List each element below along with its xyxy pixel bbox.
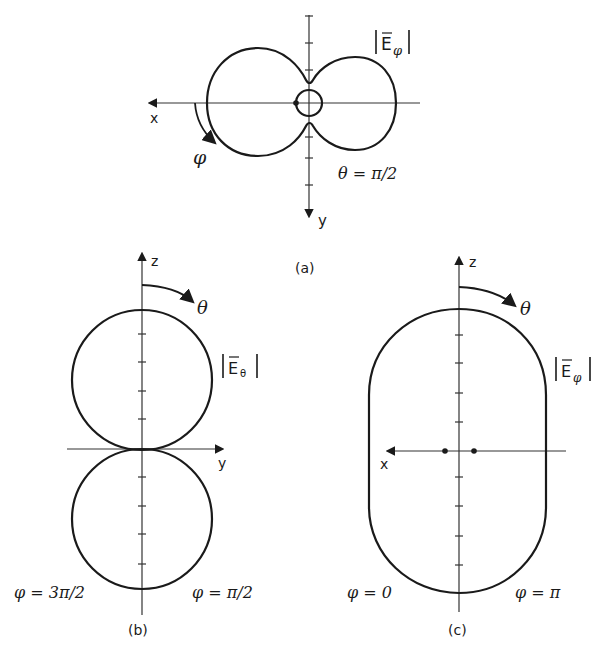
phi-3pi-2-label: φ = 3π/2 — [14, 583, 85, 602]
svg-text:E: E — [228, 359, 238, 378]
theta-angle-label-b: θ — [197, 297, 208, 318]
phi-0-label: φ = 0 — [347, 583, 392, 602]
pattern-e-phi-a — [207, 48, 396, 156]
source-dot-right — [471, 448, 477, 454]
field-label-e-phi-c: E φ — [556, 357, 590, 385]
theta-condition-label: θ = π/2 — [338, 164, 397, 183]
source-dot-left — [442, 448, 448, 454]
source-dot — [293, 100, 299, 106]
svg-text:θ: θ — [240, 368, 246, 379]
phi-pi-label: φ = π — [515, 583, 561, 602]
phi-angle-label: φ — [193, 146, 207, 168]
x-axis-label-c: x — [380, 456, 388, 472]
y-axis-label: y — [318, 212, 327, 230]
svg-text:φ: φ — [393, 43, 403, 58]
svg-text:φ: φ — [573, 371, 582, 385]
panel-c: z x θ E φ φ = 0 φ = π (c) — [347, 254, 590, 638]
caption-b: (b) — [128, 622, 148, 638]
caption-c: (c) — [448, 622, 467, 638]
radiation-pattern-figure: x y φ θ = π/2 E φ (a) z y — [0, 0, 609, 651]
theta-rotation-arrow-c — [459, 287, 514, 305]
theta-angle-label-c: θ — [520, 298, 531, 319]
z-axis-label-c: z — [469, 254, 476, 270]
svg-text:E: E — [561, 362, 571, 381]
field-label-e-phi-a: E φ — [376, 30, 409, 58]
panel-b: z y θ E θ φ = 3π/2 φ = π/2 (b) — [14, 253, 257, 638]
panel-a: x y φ θ = π/2 E φ (a) — [150, 15, 420, 276]
y-axis-label-b: y — [218, 455, 226, 471]
phi-rotation-arrow — [195, 103, 214, 142]
z-axis-label-b: z — [151, 253, 158, 269]
x-axis-label: x — [150, 110, 158, 126]
svg-text:E: E — [381, 34, 392, 54]
phi-pi-2-label: φ = π/2 — [192, 583, 253, 602]
field-label-e-theta-b: E θ — [223, 354, 257, 379]
theta-rotation-arrow-b — [142, 285, 192, 301]
caption-a: (a) — [295, 260, 315, 276]
